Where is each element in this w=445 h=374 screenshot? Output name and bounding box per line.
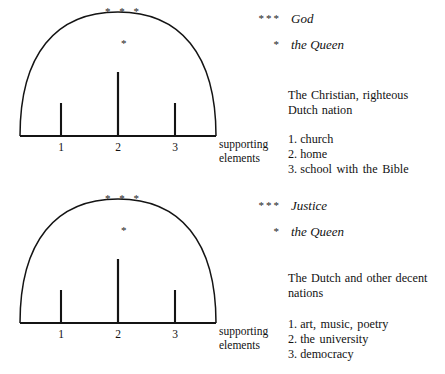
description-block-0: The Christian, righteous Dutch nation 1.… [288, 88, 445, 177]
axis-number-1: 1 [54, 329, 68, 341]
supporting-elements-line-1: supporting [219, 138, 268, 152]
supporting-elements-caption-1: supporting elements [219, 325, 268, 352]
description-list-0: 1.church 2.home 3.school with the Bible [288, 132, 445, 177]
list-item: 1.art, music, poetry [288, 317, 445, 332]
list-item-number: 2. [288, 147, 297, 161]
legend-mark-single-asterisk: * [247, 226, 281, 237]
legend-row-queen: * the Queen [245, 225, 445, 251]
description-title-line-2: Dutch nation [288, 103, 445, 118]
supporting-elements-line-1: supporting [219, 325, 268, 339]
list-item-text: home [300, 147, 327, 161]
list-item-number: 3. [288, 162, 297, 176]
description-title-1: The Dutch and other decent nations [288, 271, 445, 301]
list-item: 2.the university [288, 332, 445, 347]
list-item-text: the university [300, 332, 368, 346]
arch-figure-1: * * * * 1 2 3 [8, 189, 238, 349]
description-list-1: 1.art, music, poetry 2.the university 3.… [288, 317, 445, 362]
description-title-0: The Christian, righteous Dutch nation [288, 88, 445, 118]
description-title-line-2: nations [288, 286, 445, 301]
supporting-elements-line-2: elements [219, 339, 268, 353]
list-item: 3.school with the Bible [288, 162, 445, 177]
supporting-elements-line-2: elements [219, 152, 268, 166]
page-canvas: * * * * 1 2 3 supporting elements *** Go… [0, 0, 445, 374]
list-item: 2.home [288, 147, 445, 162]
description-title-line-1: The Christian, righteous [288, 88, 445, 103]
arch-apex-asterisks: * * * [105, 6, 142, 17]
axis-number-1: 1 [54, 142, 68, 154]
legend-0: *** God * the Queen [245, 12, 445, 64]
arch-inner-asterisk: * [121, 225, 127, 236]
arch-apex-asterisks: * * * [105, 193, 142, 204]
list-item-number: 3. [288, 347, 297, 361]
list-item-text: school with the Bible [300, 162, 408, 176]
axis-number-2: 2 [111, 329, 125, 341]
list-item: 3.democracy [288, 347, 445, 362]
list-item-text: art, music, poetry [300, 317, 388, 331]
legend-row-queen: * the Queen [245, 38, 445, 64]
list-item-number: 2. [288, 332, 297, 346]
list-item-number: 1. [288, 317, 297, 331]
supporting-elements-caption-0: supporting elements [219, 138, 268, 165]
list-item-number: 1. [288, 132, 297, 146]
legend-label-god: God [291, 12, 313, 25]
axis-number-3: 3 [168, 329, 182, 341]
diagram-panel-0: * * * * 1 2 3 supporting elements *** Go… [0, 0, 445, 187]
legend-mark-single-asterisk: * [247, 39, 281, 50]
arch-figure-0: * * * * 1 2 3 [8, 2, 238, 162]
legend-label-queen: the Queen [291, 225, 344, 238]
axis-number-2: 2 [111, 142, 125, 154]
list-item-text: church [300, 132, 333, 146]
description-title-line-1: The Dutch and other decent [288, 271, 445, 286]
axis-number-3: 3 [168, 142, 182, 154]
legend-mark-triple-asterisk: *** [247, 200, 281, 211]
list-item-text: democracy [300, 347, 353, 361]
arch-inner-asterisk: * [121, 38, 127, 49]
diagram-panel-1: * * * * 1 2 3 supporting elements *** Ju… [0, 187, 445, 374]
legend-mark-triple-asterisk: *** [247, 13, 281, 24]
legend-1: *** Justice * the Queen [245, 199, 445, 251]
legend-label-justice: Justice [291, 199, 327, 212]
description-block-1: The Dutch and other decent nations 1.art… [288, 271, 445, 362]
list-item: 1.church [288, 132, 445, 147]
legend-label-queen: the Queen [291, 38, 344, 51]
legend-row-god: *** God [245, 12, 445, 38]
legend-row-justice: *** Justice [245, 199, 445, 225]
